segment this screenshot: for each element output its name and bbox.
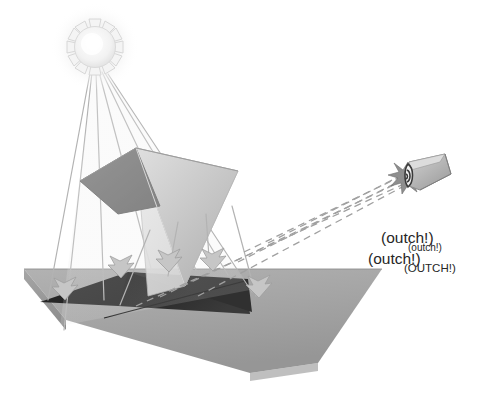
eye-outline-icon [405,164,413,187]
observer-eye [405,154,451,190]
sun [51,3,139,91]
reflected-ray-5 [268,172,408,243]
diagram-svg [0,0,480,393]
reflected-ray-4 [244,174,406,252]
sun-core-highlight [81,33,103,55]
illustration-canvas: (outch!) (outch!) (outch!) (OUTCH!) [0,0,480,393]
reflected-ray-3 [238,178,406,262]
